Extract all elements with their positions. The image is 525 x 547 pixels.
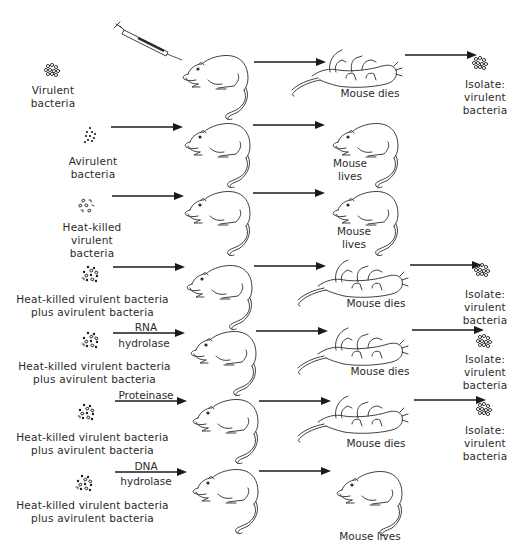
- virulent-bacteria-cluster-icon: [476, 335, 496, 351]
- inoculum-label: Virulentbacteria: [16, 84, 90, 110]
- virulent-bacteria-cluster-icon: [476, 403, 496, 419]
- mouse-alive-icon: [178, 52, 254, 122]
- syringe-icon: [114, 22, 184, 62]
- outcome-label: Mouselives: [320, 157, 380, 183]
- arrow-icon: [113, 262, 189, 272]
- isolate-label: Isolate:virulentbacteria: [455, 288, 515, 327]
- outcome-label: Mouse lives: [330, 530, 410, 543]
- arrow-icon: [405, 50, 481, 60]
- isolate-label: Isolate:virulentbacteria: [455, 78, 515, 117]
- mouse-alive-icon: [180, 120, 256, 190]
- mixed-bacteria-cluster-icon: [78, 405, 100, 425]
- outcome-label: Mouse dies: [330, 87, 410, 100]
- arrow-icon: [412, 325, 488, 335]
- virulent-bacteria-cluster-icon: [474, 264, 494, 280]
- arrow-icon: [112, 191, 188, 201]
- outcome-label: Mouse dies: [340, 365, 420, 378]
- treatment-label: hydrolase: [116, 337, 172, 350]
- mouse-alive-icon: [186, 328, 262, 398]
- outcome-label: Mouselives: [324, 225, 384, 251]
- outcome-label: Mouse dies: [336, 437, 416, 450]
- mixed-bacteria-cluster-icon: [76, 476, 98, 496]
- inoculum-label: Heat-killed virulent bacteriaplus avirul…: [10, 293, 175, 319]
- inoculum-label: Heat-killed virulent bacteriaplus avirul…: [10, 431, 175, 457]
- arrow-icon: [111, 122, 187, 132]
- arrow-icon: [253, 120, 329, 130]
- inoculum-label: Avirulentbacteria: [56, 155, 130, 181]
- inoculum-label: Heat-killedvirulentbacteria: [50, 221, 134, 260]
- mixed-bacteria-cluster-icon: [82, 333, 104, 353]
- mouse-alive-icon: [180, 188, 256, 258]
- arrow-icon: [253, 188, 329, 198]
- mouse-alive-icon: [182, 262, 258, 332]
- isolate-label: Isolate:virulentbacteria: [455, 424, 515, 463]
- mouse-alive-icon: [332, 468, 408, 538]
- inoculum-label: Heat-killed virulent bacteriaplus avirul…: [10, 499, 175, 525]
- avirulent-bacteria-cluster-icon: [84, 128, 100, 146]
- mixed-bacteria-cluster-icon: [82, 267, 104, 287]
- virulent-bacteria-cluster-icon: [44, 64, 64, 80]
- arrow-icon: [259, 466, 335, 476]
- treatment-label: hydrolase: [118, 475, 174, 488]
- inoculum-label: Heat-killed virulent bacteriaplus avirul…: [12, 360, 177, 386]
- isolate-label: Isolate:virulentbacteria: [455, 353, 515, 392]
- outcome-label: Mouse dies: [336, 297, 416, 310]
- heat-killed-bacteria-cluster-icon: [78, 198, 100, 216]
- virulent-bacteria-cluster-icon: [472, 57, 492, 73]
- arrow-icon: [115, 396, 191, 406]
- mouse-alive-icon: [188, 396, 264, 466]
- mouse-alive-icon: [188, 466, 264, 536]
